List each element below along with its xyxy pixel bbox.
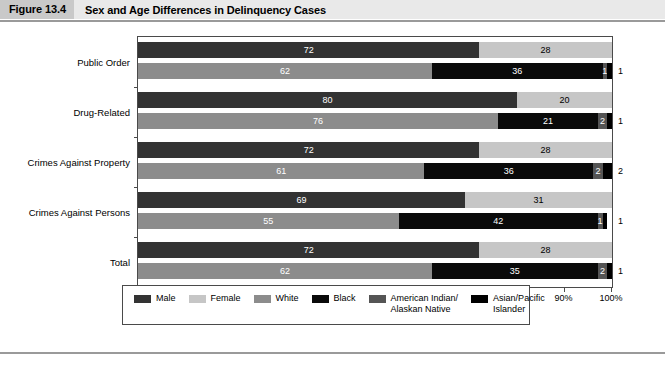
legend-label: Male	[156, 293, 176, 304]
segment-male: 72	[138, 42, 479, 58]
figure-title-band: Figure 13.4 Sex and Age Differences in D…	[0, 0, 665, 19]
legend-label: American Indian/Alaskan Native	[391, 293, 459, 315]
legend-label: White	[276, 293, 299, 304]
segment-value-label: 2	[600, 117, 605, 126]
segment-female: 28	[479, 142, 612, 158]
segment-white: 76	[138, 113, 498, 129]
segment-white: 62	[138, 263, 432, 279]
x-axis-tick-label: 100%	[599, 293, 622, 303]
legend-swatch-icon	[134, 295, 151, 303]
x-axis-tick-label: 90%	[555, 293, 573, 303]
figure-bottom-rule	[0, 352, 665, 354]
category-label: Drug-Related	[74, 107, 131, 118]
category-group: Crimes Against Persons6931155421	[138, 187, 612, 237]
bar-race: 62352	[138, 263, 612, 279]
segment-value-label-outside: 1	[618, 113, 623, 129]
segment-asian-pacific-islander	[607, 63, 612, 79]
legend-item[interactable]: White	[254, 293, 299, 304]
bar-sex: 7228	[138, 42, 612, 58]
legend-label: Asian/PacificIslander	[493, 293, 545, 315]
bar-race: 61362	[138, 163, 612, 179]
segment-asian-pacific-islander	[603, 163, 612, 179]
segment-american-indian: 2	[598, 263, 607, 279]
bar-race: 62361	[138, 63, 612, 79]
segment-asian-pacific-islander	[607, 263, 612, 279]
figure-title: Sex and Age Differences in Delinquency C…	[85, 4, 326, 16]
segment-male: 80	[138, 92, 517, 108]
bar-sex: 6931	[138, 192, 612, 208]
segment-black: 36	[424, 163, 593, 179]
y-axis-tick	[134, 137, 138, 138]
category-group: Drug-Related8020176212	[138, 87, 612, 137]
segment-value-label: 2	[595, 167, 600, 176]
legend-swatch-icon	[189, 295, 206, 303]
legend-swatch-icon	[254, 295, 271, 303]
segment-black: 21	[498, 113, 598, 129]
segment-female: 28	[479, 42, 612, 58]
category-group: Total7228162352	[138, 237, 612, 287]
legend-swatch-icon	[312, 295, 329, 303]
segment-female: 28	[479, 242, 612, 258]
y-axis-tick	[134, 237, 138, 238]
segment-male: 72	[138, 242, 479, 258]
y-axis-tick	[134, 187, 138, 188]
bar-sex: 7228	[138, 242, 612, 258]
x-axis-tick	[611, 288, 612, 292]
segment-value-label: 2	[600, 267, 605, 276]
legend-item[interactable]: American Indian/Alaskan Native	[369, 293, 459, 315]
category-group: Crimes Against Property7228261362	[138, 137, 612, 187]
segment-white: 55	[138, 213, 399, 229]
legend-swatch-icon	[369, 295, 386, 303]
segment-female: 31	[465, 192, 612, 208]
legend-item[interactable]: Female	[189, 293, 241, 304]
legend-item[interactable]: Male	[134, 293, 176, 304]
segment-female: 20	[517, 92, 612, 108]
category-label: Crimes Against Persons	[29, 207, 130, 218]
bar-sex: 8020	[138, 92, 612, 108]
category-label: Total	[110, 257, 130, 268]
legend-label: Black	[334, 293, 356, 304]
segment-value-label-outside: 1	[618, 63, 623, 79]
segment-black: 36	[432, 63, 603, 79]
segment-value-label-outside: 1	[618, 213, 623, 229]
chart-legend: MaleFemaleWhiteBlackAmerican Indian/Alas…	[122, 285, 530, 325]
bar-race: 55421	[138, 213, 612, 229]
segment-white: 61	[138, 163, 424, 179]
category-label: Crimes Against Property	[28, 157, 130, 168]
bar-sex: 7228	[138, 142, 612, 158]
title-divider-rule	[0, 20, 665, 22]
x-axis-tick	[564, 288, 565, 292]
legend-label: Female	[211, 293, 241, 304]
segment-male: 69	[138, 192, 465, 208]
segment-asian-pacific-islander	[607, 113, 612, 129]
category-group: Public Order7228162361	[138, 37, 612, 87]
segment-value-label-outside: 1	[618, 263, 623, 279]
segment-black: 35	[432, 263, 598, 279]
segment-american-indian: 2	[598, 113, 607, 129]
legend-swatch-icon	[471, 295, 488, 303]
y-axis-tick	[134, 87, 138, 88]
legend-item[interactable]: Asian/PacificIslander	[471, 293, 545, 315]
segment-american-indian: 2	[593, 163, 602, 179]
plot-area: Public Order7228162361Drug-Related802017…	[137, 36, 613, 287]
figure-number: Figure 13.4	[0, 0, 74, 19]
segment-white: 62	[138, 63, 432, 79]
segment-value-label-outside: 2	[618, 163, 623, 179]
bar-race: 76212	[138, 113, 612, 129]
segment-asian-pacific-islander	[603, 213, 608, 229]
segment-black: 42	[399, 213, 598, 229]
category-label: Public Order	[77, 57, 130, 68]
segment-male: 72	[138, 142, 479, 158]
legend-item[interactable]: Black	[312, 293, 356, 304]
